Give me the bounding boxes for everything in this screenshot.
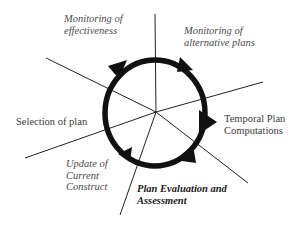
label-line: Computations (224, 125, 285, 137)
arrow-icon-bottom-right (175, 145, 196, 163)
arrow-icon-top-right (177, 57, 193, 72)
label-line: Current (66, 170, 108, 182)
label-line: Update of (66, 158, 108, 170)
label-update-current-construct: Update of Current Construct (66, 158, 108, 193)
label-line: Temporal Plan (224, 113, 285, 125)
label-line: effectiveness (64, 25, 123, 37)
label-temporal-plan-computations: Temporal Plan Computations (224, 113, 285, 136)
label-monitoring-effectiveness: Monitoring of effectiveness (64, 13, 123, 36)
label-monitoring-alternative-plans: Monitoring of alternative plans (184, 25, 255, 48)
label-line: Construct (66, 181, 108, 193)
label-line: Plan Evaluation and (137, 183, 227, 195)
label-line: alternative plans (184, 37, 255, 49)
spoke-upper-right (156, 82, 263, 112)
label-line: Monitoring of (64, 13, 123, 25)
label-selection-of-plan: Selection of plan (16, 116, 87, 128)
spoke-top (155, 14, 156, 112)
label-line: Selection of plan (16, 116, 87, 128)
spoke-upper-left (46, 58, 156, 112)
arrow-icon-right (199, 110, 217, 134)
label-plan-evaluation: Plan Evaluation and Assessment (137, 183, 227, 206)
label-line: Assessment (137, 195, 227, 207)
label-line: Monitoring of (184, 25, 255, 37)
